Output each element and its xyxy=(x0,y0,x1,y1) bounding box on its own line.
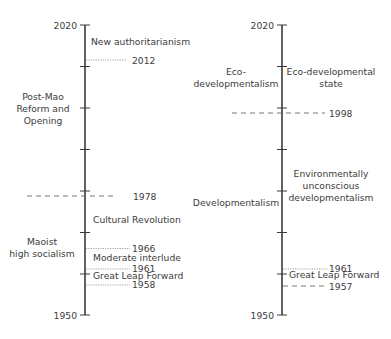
svg-text:Opening: Opening xyxy=(24,115,63,126)
period-environmentally-unconscious: Environmentally unconscious developmenta… xyxy=(288,168,373,203)
svg-text:developmentalism: developmentalism xyxy=(288,192,373,203)
svg-text:Post-Mao: Post-Mao xyxy=(22,91,64,102)
svg-text:1958: 1958 xyxy=(132,279,156,290)
svg-text:Eco-: Eco- xyxy=(226,66,246,77)
svg-text:Reform and: Reform and xyxy=(16,103,69,114)
svg-text:1998: 1998 xyxy=(329,108,353,119)
svg-text:1957: 1957 xyxy=(329,281,353,292)
period-moderate-interlude: Moderate interlude xyxy=(93,252,181,263)
svg-text:high socialism: high socialism xyxy=(9,248,74,259)
period-new-authoritarianism: New authoritarianism xyxy=(91,36,190,47)
svg-text:1978: 1978 xyxy=(133,191,157,202)
svg-text:2012: 2012 xyxy=(132,55,155,66)
marker-2012: 2012 xyxy=(86,55,155,66)
svg-text:1961: 1961 xyxy=(329,263,352,274)
svg-text:1966: 1966 xyxy=(132,243,156,254)
svg-text:state: state xyxy=(319,78,343,89)
right-timeline: 2020 1950 Eco- developmentalism Developm… xyxy=(193,20,380,321)
period-eco-developmental-state: Eco-developmental state xyxy=(287,66,376,89)
svg-text:Eco-developmental: Eco-developmental xyxy=(287,66,376,77)
svg-text:unconscious: unconscious xyxy=(303,180,360,191)
svg-text:developmentalism: developmentalism xyxy=(193,78,278,89)
marker-1978: 1978 xyxy=(27,191,157,202)
period-cultural-revolution: Cultural Revolution xyxy=(93,214,181,225)
svg-text:1961: 1961 xyxy=(132,263,155,274)
left-period-post-mao: Post-Mao Reform and Opening xyxy=(16,91,69,126)
left-period-developmentalism: Developmentalism xyxy=(193,197,279,208)
svg-text:Environmentally: Environmentally xyxy=(294,168,369,179)
left-axis-top-label: 2020 xyxy=(54,20,78,31)
right-axis-bottom-label: 1950 xyxy=(251,310,275,321)
marker-1957: 1957 xyxy=(283,281,353,292)
left-timeline: 2020 1950 Post-Mao Reform and Opening Ma… xyxy=(9,20,190,321)
left-axis-bottom-label: 1950 xyxy=(54,310,78,321)
right-axis-top-label: 2020 xyxy=(251,20,275,31)
marker-1998: 1998 xyxy=(232,108,353,119)
left-period-eco-developmentalism: Eco- developmentalism xyxy=(193,66,278,89)
svg-text:Maoist: Maoist xyxy=(27,236,58,247)
dual-timeline-diagram: 2020 1950 Post-Mao Reform and Opening Ma… xyxy=(0,0,391,339)
left-period-maoist: Maoist high socialism xyxy=(9,236,74,259)
